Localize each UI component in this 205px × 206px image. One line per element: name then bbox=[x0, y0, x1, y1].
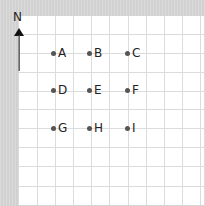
point-f: F bbox=[125, 83, 139, 97]
gridline-horizontal bbox=[19, 128, 204, 129]
point-label: D bbox=[58, 83, 67, 97]
point-dot-icon bbox=[125, 88, 130, 93]
point-label: C bbox=[132, 46, 140, 60]
point-label: A bbox=[58, 46, 66, 60]
point-e: E bbox=[87, 83, 102, 97]
gridline-vertical bbox=[55, 16, 56, 205]
gridline-horizontal bbox=[19, 147, 204, 148]
point-i: I bbox=[125, 121, 136, 135]
gridline-horizontal bbox=[19, 53, 204, 54]
gridline-vertical bbox=[164, 16, 165, 205]
gridline-vertical bbox=[91, 16, 92, 205]
gridline-vertical bbox=[182, 16, 183, 205]
gridline-vertical bbox=[146, 16, 147, 205]
point-label: H bbox=[94, 121, 103, 135]
gridline-horizontal bbox=[19, 109, 204, 110]
gridline-vertical bbox=[37, 16, 38, 205]
point-label: I bbox=[132, 121, 136, 135]
point-dot-icon bbox=[51, 88, 56, 93]
point-g: G bbox=[51, 121, 67, 135]
point-label: G bbox=[58, 121, 67, 135]
point-h: H bbox=[87, 121, 103, 135]
gridline-horizontal bbox=[19, 72, 204, 73]
point-label: B bbox=[94, 46, 102, 60]
point-dot-icon bbox=[87, 126, 92, 131]
point-a: A bbox=[51, 46, 66, 60]
gridline-vertical bbox=[109, 16, 110, 205]
point-label: E bbox=[94, 83, 102, 97]
gridline-horizontal bbox=[19, 186, 204, 187]
point-d: D bbox=[51, 83, 67, 97]
point-b: B bbox=[87, 46, 102, 60]
point-dot-icon bbox=[51, 51, 56, 56]
point-dot-icon bbox=[87, 88, 92, 93]
point-dot-icon bbox=[125, 51, 130, 56]
grid-panel bbox=[19, 16, 204, 205]
point-dot-icon bbox=[125, 126, 130, 131]
gridline-horizontal bbox=[19, 34, 204, 35]
gridline-horizontal bbox=[19, 166, 204, 167]
gridline-vertical bbox=[200, 16, 201, 205]
gridline-horizontal bbox=[19, 91, 204, 92]
north-arrow-icon bbox=[12, 11, 28, 73]
point-c: C bbox=[125, 46, 140, 60]
point-dot-icon bbox=[87, 51, 92, 56]
point-dot-icon bbox=[51, 126, 56, 131]
north-indicator: N bbox=[12, 11, 28, 73]
gridline-vertical bbox=[128, 16, 129, 205]
point-label: F bbox=[132, 83, 139, 97]
gridline-vertical bbox=[73, 16, 74, 205]
